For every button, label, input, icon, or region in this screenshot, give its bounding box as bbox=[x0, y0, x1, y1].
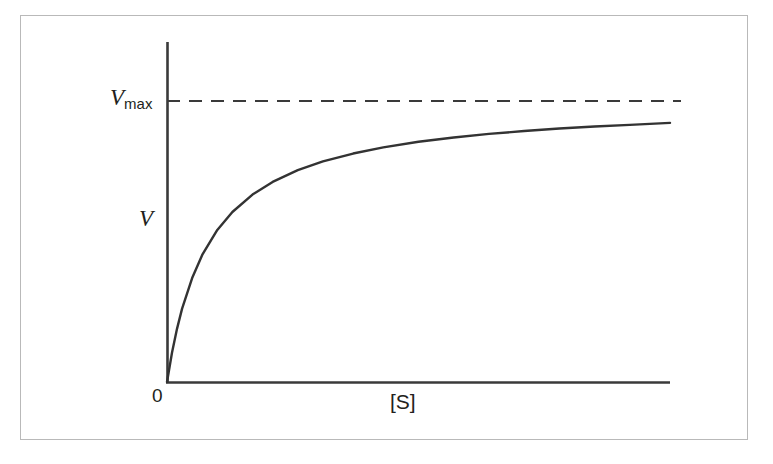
michaelis-menten-curve bbox=[167, 123, 670, 382]
vmax-subscript: max bbox=[124, 95, 152, 112]
x-axis-label: [S] bbox=[390, 391, 416, 412]
vmax-axis-label: Vmax bbox=[110, 86, 152, 109]
vmax-variable: V bbox=[110, 85, 124, 110]
plot-area bbox=[0, 0, 773, 464]
origin-label: 0 bbox=[152, 386, 163, 405]
figure-container: Vmax V 0 [S] bbox=[0, 0, 773, 464]
y-axis-label: V bbox=[139, 207, 153, 230]
